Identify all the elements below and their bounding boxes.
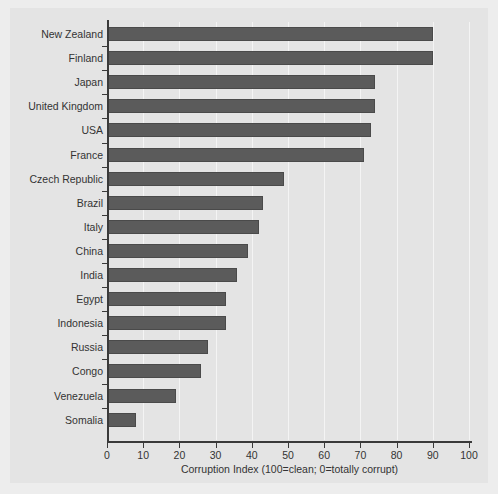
x-axis-tick-label: 60 xyxy=(318,449,330,461)
x-axis-tick-mark xyxy=(360,443,361,448)
bar-row: Italy xyxy=(107,215,469,239)
x-axis-tick-mark xyxy=(324,443,325,448)
bar-row: China xyxy=(107,239,469,263)
x-axis-tick-label: 20 xyxy=(174,449,186,461)
bar-row: France xyxy=(107,143,469,167)
bar-row: Egypt xyxy=(107,287,469,311)
bar-row: Indonesia xyxy=(107,311,469,335)
bar-row: India xyxy=(107,263,469,287)
y-axis-tick-label: United Kingdom xyxy=(9,99,103,113)
y-axis-tick-label: Venezuela xyxy=(9,389,103,403)
bar-brazil xyxy=(107,196,263,210)
bar-russia xyxy=(107,340,208,354)
bar-venezuela xyxy=(107,389,176,403)
y-axis-line xyxy=(107,20,109,442)
x-axis-tick-mark xyxy=(397,443,398,448)
x-axis-tick-label: 40 xyxy=(246,449,258,461)
bar-italy xyxy=(107,220,259,234)
bar-china xyxy=(107,244,248,258)
x-axis-tick-mark xyxy=(288,443,289,448)
bar-row: Czech Republic xyxy=(107,167,469,191)
y-axis-tick-label: Somalia xyxy=(9,413,103,427)
bar-new-zealand xyxy=(107,27,433,41)
y-axis-tick-label: Brazil xyxy=(9,196,103,210)
y-axis-tick-label: Japan xyxy=(9,75,103,89)
bar-indonesia xyxy=(107,316,226,330)
bar-egypt xyxy=(107,292,226,306)
x-axis-tick-label: 80 xyxy=(391,449,403,461)
x-axis-tick-label: 70 xyxy=(355,449,367,461)
bar-usa xyxy=(107,123,371,137)
bar-row: Congo xyxy=(107,359,469,383)
y-axis-tick-label: Egypt xyxy=(9,292,103,306)
bar-france xyxy=(107,148,364,162)
x-axis-tick-label: 0 xyxy=(104,449,110,461)
x-axis-tick-mark xyxy=(433,443,434,448)
x-axis-tick-mark xyxy=(179,443,180,448)
bar-india xyxy=(107,268,237,282)
x-axis-tick-mark xyxy=(469,443,470,448)
x-axis-tick-mark xyxy=(216,443,217,448)
bar-row: Brazil xyxy=(107,191,469,215)
bar-row: USA xyxy=(107,118,469,142)
bar-finland xyxy=(107,51,433,65)
x-axis-tick-mark xyxy=(252,443,253,448)
bar-czech-republic xyxy=(107,172,284,186)
y-axis-tick-label: India xyxy=(9,268,103,282)
bar-united-kingdom xyxy=(107,99,375,113)
gridline-100 xyxy=(469,22,470,440)
bar-row: Japan xyxy=(107,70,469,94)
y-axis-tick-label: Russia xyxy=(9,340,103,354)
bar-row: United Kingdom xyxy=(107,94,469,118)
plot-area: New ZealandFinlandJapanUnited KingdomUSA… xyxy=(107,22,469,440)
x-axis-tick-mark xyxy=(107,443,108,448)
chart-panel: New ZealandFinlandJapanUnited KingdomUSA… xyxy=(10,8,488,483)
x-axis-label: Corruption Index (100=clean; 0=totally c… xyxy=(107,463,472,475)
y-axis-tick-label: Congo xyxy=(9,364,103,378)
bar-row: Venezuela xyxy=(107,384,469,408)
y-axis-tick-label: Italy xyxy=(9,220,103,234)
bar-row: Russia xyxy=(107,335,469,359)
bar-row: Finland xyxy=(107,46,469,70)
bar-row: Somalia xyxy=(107,408,469,432)
bar-row: New Zealand xyxy=(107,22,469,46)
x-axis-tick-label: 90 xyxy=(427,449,439,461)
x-axis-tick-label: 100 xyxy=(460,449,478,461)
y-axis-tick-label: USA xyxy=(9,123,103,137)
x-axis-tick-label: 10 xyxy=(137,449,149,461)
x-axis-tick-mark xyxy=(143,443,144,448)
bar-congo xyxy=(107,364,201,378)
x-axis-tick-label: 30 xyxy=(210,449,222,461)
y-axis-tick-label: France xyxy=(9,148,103,162)
bar-japan xyxy=(107,75,375,89)
y-axis-tick-label: Indonesia xyxy=(9,316,103,330)
y-axis-tick-label: Czech Republic xyxy=(9,172,103,186)
x-axis-tick-label: 50 xyxy=(282,449,294,461)
y-axis-tick-label: Finland xyxy=(9,51,103,65)
bar-somalia xyxy=(107,413,136,427)
y-axis-tick-label: China xyxy=(9,244,103,258)
x-axis-ticks: 0102030405060708090100 xyxy=(107,443,472,463)
y-axis-tick-label: New Zealand xyxy=(9,27,103,41)
